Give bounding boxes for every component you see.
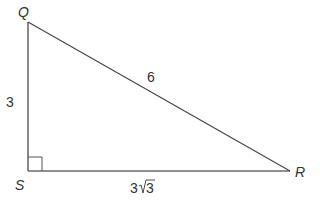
vertex-label-r: R (295, 164, 305, 180)
side-label-qs: 3 (6, 94, 14, 110)
side-label-sr-coef: 3 (130, 180, 138, 196)
vertex-label-s: S (15, 177, 25, 193)
side-label-sr: 3 3 (130, 180, 155, 196)
side-label-sr-radicand: 3 (146, 180, 154, 196)
triangle-diagram: Q S R 3 6 3 3 (0, 0, 320, 202)
side-qr (28, 22, 290, 171)
side-label-qr: 6 (147, 69, 155, 85)
vertex-label-q: Q (18, 4, 29, 20)
right-angle-marker (28, 157, 42, 171)
